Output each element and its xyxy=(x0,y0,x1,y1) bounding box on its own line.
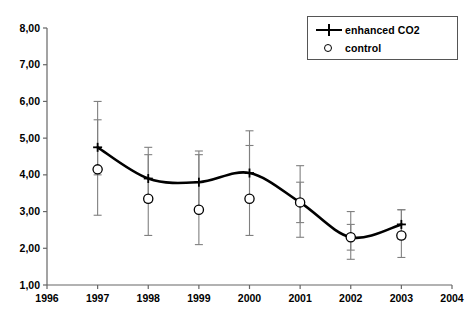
y-tick-label: 5,00 xyxy=(20,133,40,144)
y-tick-label: 3,00 xyxy=(20,206,40,217)
line-cross-marker-icon xyxy=(316,23,342,37)
chart-container: 1,002,003,004,005,006,007,008,00 1996199… xyxy=(0,0,471,316)
chart-legend: enhanced CO2 control xyxy=(307,16,458,60)
legend-item-control: control xyxy=(316,39,451,57)
y-tick-label: 7,00 xyxy=(20,59,40,70)
legend-item-enhanced-co2: enhanced CO2 xyxy=(316,21,451,39)
y-tick-label: 1,00 xyxy=(20,280,40,291)
y-tick-label: 4,00 xyxy=(20,169,40,180)
y-tick-label: 6,00 xyxy=(20,96,40,107)
axes xyxy=(43,28,452,289)
open-circle-marker-icon xyxy=(316,41,342,55)
legend-label-control: control xyxy=(345,42,381,54)
x-tick-label: 2000 xyxy=(227,293,273,304)
x-tick-label: 2003 xyxy=(378,293,424,304)
x-tick-label: 2002 xyxy=(328,293,374,304)
x-tick-label: 2004 xyxy=(429,293,471,304)
x-tick-label: 1999 xyxy=(176,293,222,304)
x-tick-label: 1997 xyxy=(75,293,121,304)
x-tick-label: 1998 xyxy=(125,293,171,304)
error-bars xyxy=(94,101,406,259)
y-tick-label: 2,00 xyxy=(20,243,40,254)
x-tick-label: 2001 xyxy=(277,293,323,304)
y-tick-label: 8,00 xyxy=(20,23,40,34)
x-tick-label: 1996 xyxy=(24,293,70,304)
legend-label-enhanced-co2: enhanced CO2 xyxy=(345,24,420,36)
